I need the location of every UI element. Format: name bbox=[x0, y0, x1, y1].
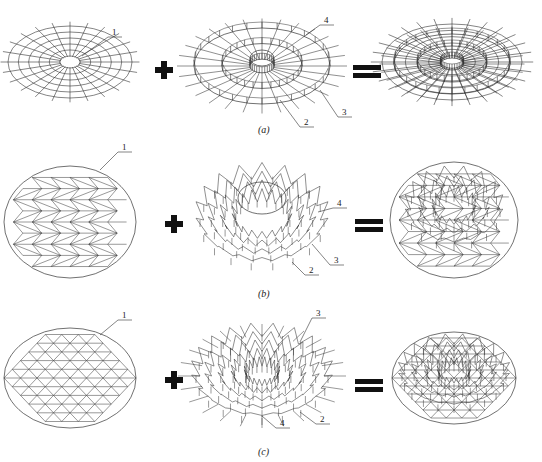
diagram-canvas: 143214321342 bbox=[0, 0, 542, 462]
composite-diagram: 143214321342 (a) (b) (c) bbox=[0, 0, 542, 462]
label-1-a: 1 bbox=[112, 27, 117, 37]
label-3-c: 3 bbox=[316, 308, 321, 318]
c-grid-shell: 1 bbox=[4, 310, 136, 428]
plus-icon-c bbox=[165, 371, 183, 389]
c-ring-structure: 342 bbox=[178, 308, 346, 428]
equals-icon-b bbox=[355, 219, 383, 232]
b-combined bbox=[390, 162, 518, 278]
label-1-c: 1 bbox=[122, 310, 127, 320]
a-cable-net: 1 bbox=[1, 22, 140, 103]
label-3-b: 3 bbox=[334, 255, 339, 265]
a-combined bbox=[371, 18, 533, 106]
c-combined bbox=[392, 332, 516, 424]
b-grid-shell: 1 bbox=[4, 142, 136, 278]
caption-b: (b) bbox=[258, 288, 270, 299]
label-2-b: 2 bbox=[309, 265, 314, 275]
label-3-a: 3 bbox=[342, 107, 347, 117]
label-1-b: 1 bbox=[122, 142, 127, 152]
equals-icon-c bbox=[355, 379, 383, 392]
label-4-b: 4 bbox=[337, 198, 342, 208]
a-ring-structure: 432 bbox=[177, 15, 352, 127]
b-ring-structure: 432 bbox=[196, 162, 347, 275]
plus-icon-a bbox=[155, 61, 173, 79]
label-2-a: 2 bbox=[304, 117, 309, 127]
label-4-c: 4 bbox=[280, 418, 285, 428]
label-4-a: 4 bbox=[324, 15, 329, 25]
label-2-c: 2 bbox=[320, 414, 325, 424]
caption-c: (c) bbox=[258, 446, 269, 457]
caption-a: (a) bbox=[258, 124, 270, 135]
plus-icon-b bbox=[165, 215, 183, 233]
